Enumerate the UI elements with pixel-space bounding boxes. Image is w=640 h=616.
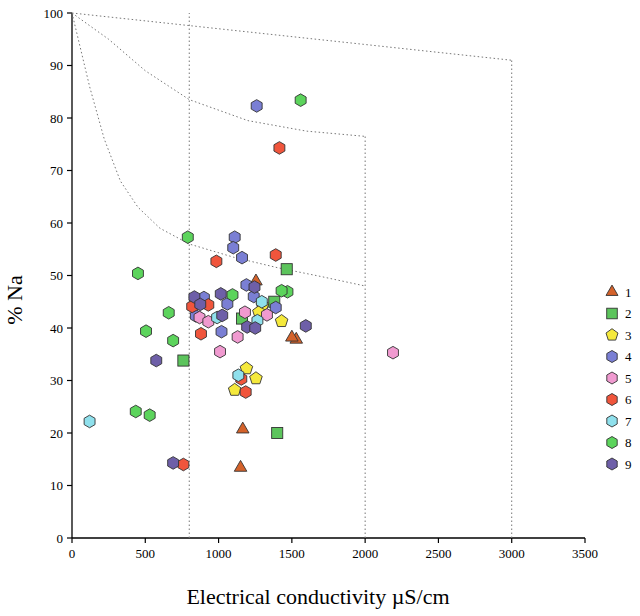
data-point-series-7	[84, 415, 95, 428]
data-point-series-2	[178, 355, 189, 366]
data-point-series-2	[281, 264, 292, 275]
data-point-series-9	[168, 457, 179, 470]
y-tick-label: 70	[50, 163, 63, 178]
boundary-curve-lower	[72, 13, 365, 286]
legend-label-6: 6	[625, 392, 632, 407]
data-point-series-6	[274, 142, 285, 155]
data-point-series-8	[133, 267, 144, 280]
data-point-series-8	[182, 231, 193, 244]
y-axis-title: % Na	[2, 275, 27, 325]
data-point-series-3	[228, 383, 241, 395]
x-tick-label: 1500	[279, 546, 305, 561]
data-point-series-4	[237, 251, 248, 264]
legend-label-3: 3	[625, 328, 632, 343]
legend-label-7: 7	[625, 414, 632, 429]
data-point-series-7	[256, 295, 267, 308]
data-point-series-9	[151, 354, 162, 367]
data-point-series-4	[228, 241, 239, 254]
x-tick-label: 1000	[206, 546, 232, 561]
y-tick-label: 20	[50, 426, 63, 441]
y-tick-label: 10	[50, 478, 63, 493]
data-point-series-8	[130, 405, 141, 418]
data-point-series-4	[229, 231, 240, 244]
chart-canvas: 0102030405060708090100050010001500200025…	[0, 0, 640, 616]
data-point-series-8	[227, 289, 238, 302]
data-point-series-4	[251, 100, 262, 113]
y-tick-label: 30	[50, 373, 63, 388]
x-tick-label: 3500	[572, 546, 598, 561]
data-point-series-8	[295, 94, 306, 107]
legend-marker-6	[607, 394, 617, 406]
data-point-series-6	[211, 255, 222, 268]
legend-label-9: 9	[625, 457, 632, 472]
data-point-series-8	[141, 325, 152, 338]
data-point-series-5	[240, 306, 251, 319]
legend-label-1: 1	[625, 285, 632, 300]
data-point-series-5	[388, 346, 399, 359]
y-tick-label: 0	[57, 531, 64, 546]
legend-marker-8	[607, 437, 617, 449]
x-tick-label: 3000	[499, 546, 525, 561]
boundary-curve-upper	[72, 13, 365, 136]
data-point-series-2	[272, 427, 283, 438]
data-point-series-6	[240, 386, 251, 399]
x-tick-label: 2500	[425, 546, 451, 561]
data-point-series-9	[195, 298, 206, 311]
y-tick-label: 50	[50, 268, 63, 283]
data-point-series-6	[270, 249, 281, 262]
y-tick-label: 100	[44, 6, 64, 21]
x-axis-title: Electrical conductivity µS/cm	[186, 584, 449, 609]
legend-label-4: 4	[625, 349, 632, 364]
data-point-series-1	[236, 422, 249, 433]
data-point-series-9	[300, 320, 311, 333]
data-point-series-6	[196, 327, 207, 340]
y-tick-label: 40	[50, 321, 63, 336]
x-tick-label: 2000	[352, 546, 378, 561]
x-tick-label: 0	[69, 546, 76, 561]
legend-label-2: 2	[625, 306, 632, 321]
data-point-series-8	[168, 334, 179, 347]
y-tick-label: 90	[50, 58, 63, 73]
series-group-9	[151, 281, 311, 469]
legend-label-5: 5	[625, 371, 632, 386]
legend-marker-5	[607, 372, 617, 384]
legend-marker-7	[607, 415, 617, 427]
data-point-series-9	[217, 309, 228, 322]
legend-marker-3	[606, 329, 618, 340]
data-point-series-8	[144, 409, 155, 422]
y-tick-label: 60	[50, 216, 63, 231]
data-point-series-9	[215, 288, 226, 301]
data-point-series-5	[215, 345, 226, 358]
data-point-series-8	[276, 284, 287, 297]
legend-marker-1	[606, 285, 618, 295]
x-tick-label: 500	[136, 546, 156, 561]
data-point-series-6	[178, 458, 189, 471]
legend-marker-2	[607, 308, 618, 319]
data-point-series-3	[275, 315, 288, 327]
data-point-series-1	[234, 460, 247, 471]
data-point-series-3	[250, 372, 263, 384]
y-tick-label: 80	[50, 111, 63, 126]
data-point-series-9	[250, 322, 261, 335]
legend-marker-4	[607, 351, 617, 363]
boundary-curve-top	[72, 13, 512, 60]
data-point-series-5	[232, 331, 243, 344]
data-point-series-7	[233, 369, 244, 382]
sodium-percent-vs-conductivity-scatter-chart: 0102030405060708090100050010001500200025…	[0, 0, 640, 616]
data-point-series-9	[249, 281, 260, 294]
data-point-series-8	[163, 306, 174, 319]
data-point-series-4	[216, 325, 227, 338]
legend-marker-9	[607, 458, 617, 470]
legend-label-8: 8	[625, 435, 632, 450]
